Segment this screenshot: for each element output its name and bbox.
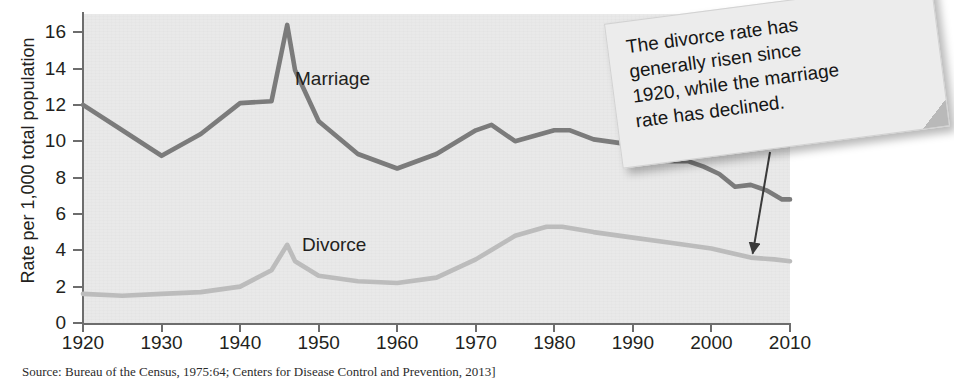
series-label-divorce: Divorce <box>302 234 366 256</box>
callout-fold-corner <box>920 99 949 128</box>
callout-arrow <box>753 152 770 254</box>
source-note: Source: Bureau of the Census, 1975:64; C… <box>22 364 922 379</box>
marriage-divorce-rate-chart: 0246810121416 19201930194019501960197019… <box>0 0 954 381</box>
callout-text: The divorce rate hasgenerally risen sinc… <box>624 0 928 133</box>
series-label-marriage: Marriage <box>295 68 370 90</box>
series-line-divorce <box>83 227 790 296</box>
